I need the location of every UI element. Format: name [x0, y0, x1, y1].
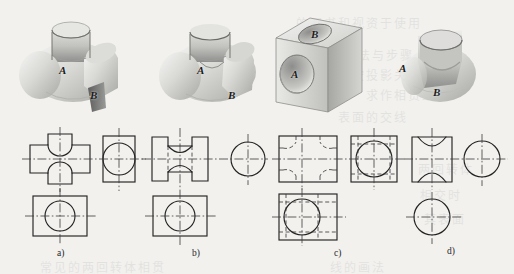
hidden-lines: [168, 136, 397, 240]
pictorial-b-label-B: B: [228, 89, 235, 101]
caption-d: d): [447, 246, 455, 256]
views-group-c: [279, 136, 397, 240]
views-group-d: [412, 137, 500, 235]
pictorial-a-label-B: B: [90, 89, 97, 101]
caption-b: b): [192, 248, 200, 258]
center-lines: [22, 127, 508, 246]
pictorial-b-label-A: A: [197, 64, 204, 76]
pictorial-d-label-B: B: [433, 86, 440, 98]
caption-c: c): [334, 248, 341, 258]
pictorial-c-label-A: A: [291, 68, 298, 80]
orthographic-projection-row: [0, 0, 514, 274]
pictorial-a-label-A: A: [59, 64, 66, 76]
pictorial-c-label-B: B: [311, 28, 318, 40]
caption-a: a): [57, 248, 64, 258]
pictorial-d-label-A: A: [399, 62, 406, 74]
